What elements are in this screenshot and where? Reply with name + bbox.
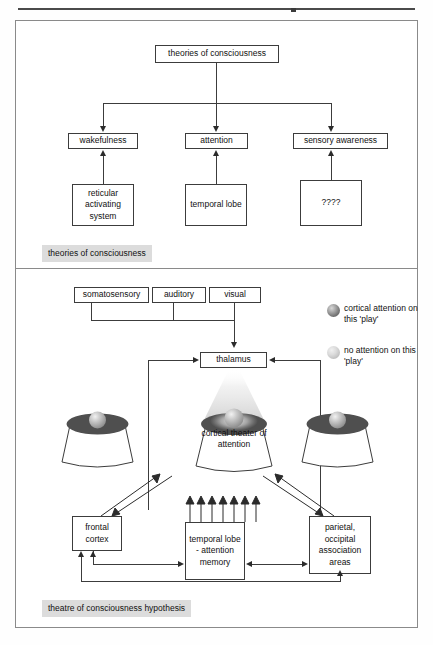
node-visual: visual [209,287,261,303]
connector-unknown-up [331,155,332,180]
legend-light-sphere-icon [327,346,340,359]
node-thalamus: thalamus [200,352,267,368]
arrowhead-to-attention [213,126,219,132]
arrowhead-parietal-in [302,561,308,567]
connector-right-loop-vertical [320,360,321,510]
connector-root-stem [216,63,217,104]
connector-merge-to-thalamus [234,320,235,344]
node-frontal-cortex: frontal cortex [72,516,122,551]
arrowhead-frontal-to-temporal [178,561,184,567]
header-rule-tick [291,8,296,12]
node-auditory: auditory [152,287,206,303]
header-rule [18,8,415,10]
node-somatosensory: somatosensory [74,287,149,303]
arrowhead-to-attention-from-leaf [213,150,219,156]
connector-auditory-down [173,303,174,320]
connector-drop-center [216,103,217,128]
caption-theatre-of-consciousness-hypothesis: theatre of consciousness hypothesis [42,600,191,617]
stage-center-label: cortical theater of attention [186,428,282,450]
connector-drop-left [103,103,104,128]
connector-left-loop-vertical [148,360,149,510]
connector-thalamus-in-right [275,360,320,361]
arrowhead-thalamus-left-in [193,357,199,363]
arrowhead-into-frontal-bottom-b [90,551,96,557]
node-sensory-awareness: sensory awareness [293,133,388,149]
node-reticular-activating-system: reticular activating system [72,184,134,226]
arrowhead-into-parietal-bottom [337,570,343,576]
connector-temporal-parietal [252,564,302,565]
arrowhead-into-frontal-bottom [78,551,84,557]
legend-label-no-attention: no attention on this 'play' [344,345,418,366]
connector-temporal-up [216,155,217,185]
node-temporal-lobe-attention-memory: temporal lobe - attention memory [185,522,245,580]
connector-drop-right [331,103,332,128]
arrowhead-thalamus-right-in [269,357,275,363]
connector-sensory-merge-bus [91,320,235,321]
arrowhead-to-thalamus [231,342,237,348]
figure-page: theories of consciousness wakefulness at… [0,0,433,645]
node-parietal-occipital-association-areas: parietal, occipital association areas [309,516,371,574]
connector-thalamus-in-left [148,360,193,361]
legend-label-cortical-attention: cortical attention on this 'play' [344,303,418,324]
legend-item-no-attention: no attention on this 'play' [327,345,418,366]
node-theories-of-consciousness: theories of consciousness [155,45,279,63]
arrowhead-to-sensory-awareness [328,126,334,132]
legend-dark-sphere-icon [327,304,340,317]
node-attention: attention [185,133,248,149]
connector-bottom-return-bus [81,581,341,582]
connector-frontal-to-temporal [93,564,178,565]
connector-somatosensory-down [91,303,92,320]
connector-return-to-frontal [81,556,82,581]
node-wakefulness: wakefulness [68,133,138,149]
panel-divider [15,268,418,269]
connector-visual-down [234,303,235,320]
arrowhead-to-wakefulness [100,126,106,132]
arrowhead-to-sensory-from-leaf [328,150,334,156]
node-unknown: ???? [300,180,362,226]
arrowhead-to-wakefulness-from-leaf [100,150,106,156]
connector-branch-bus [103,103,331,104]
caption-theories-of-consciousness: theories of consciousness [42,245,152,262]
arrowhead-temporal-in [246,561,252,567]
legend-item-cortical-attention: cortical attention on this 'play' [327,303,418,324]
node-temporal-lobe: temporal lobe [185,184,247,226]
connector-reticular-up [103,155,104,185]
